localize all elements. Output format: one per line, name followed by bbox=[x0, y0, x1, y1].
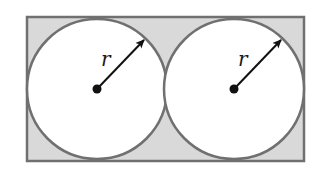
center-point bbox=[93, 85, 102, 94]
radius-label: r bbox=[101, 47, 112, 71]
center-point bbox=[230, 85, 239, 94]
two-circles-in-rectangle-diagram: rr bbox=[0, 0, 313, 170]
circle-right: r bbox=[164, 19, 304, 159]
radius-label: r bbox=[238, 47, 249, 71]
circle-left: r bbox=[27, 19, 167, 159]
